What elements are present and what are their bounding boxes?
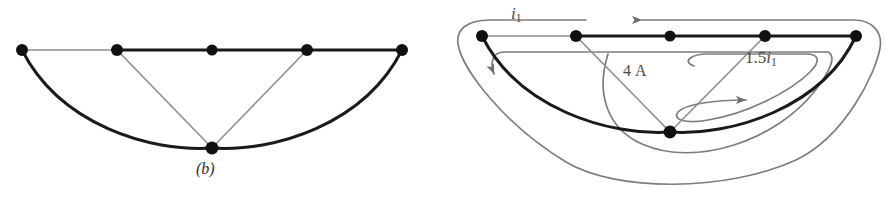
node-c-5	[850, 30, 862, 42]
label-15i1-coefficient: 1.5	[745, 48, 766, 67]
node-b-6	[206, 142, 219, 155]
node-c-3	[665, 31, 676, 42]
label-i1-subscript: 1	[516, 12, 522, 25]
panel-b-caption: (b)	[196, 160, 215, 178]
edge-b-n2-n6	[117, 50, 212, 148]
label-4a-text: 4 A	[623, 62, 647, 79]
arc-c-n1-n6	[482, 36, 670, 132]
node-b-3	[207, 45, 218, 56]
label-mesh-current-i1: i1	[511, 4, 522, 25]
node-c-4	[759, 30, 771, 42]
label-current-source-4a: 4 A	[623, 62, 647, 80]
node-c-6	[664, 126, 677, 139]
panel-b: (b)	[0, 0, 446, 197]
node-c-1	[476, 30, 488, 42]
edge-c-n2-n6	[576, 36, 670, 132]
node-b-5	[396, 44, 408, 56]
node-b-2	[111, 44, 123, 56]
label-dependent-source-15i1: 1.5i1	[745, 48, 777, 69]
figure-root: (b)	[0, 0, 892, 197]
node-c-2	[570, 30, 582, 42]
panel-c-graphic	[446, 0, 892, 197]
panel-c: (c)	[446, 0, 892, 197]
arc-b-n6-n5	[212, 50, 402, 148]
node-b-4	[301, 44, 313, 56]
panel-b-graphic	[0, 0, 446, 197]
node-b-1	[16, 44, 28, 56]
edge-b-n4-n6	[212, 50, 307, 148]
middle-mesh-loop-path	[492, 52, 832, 153]
arc-b-n1-n6	[22, 50, 212, 148]
label-15i1-subscript: 1	[771, 56, 777, 69]
outer-mesh-loop-path	[458, 20, 881, 184]
